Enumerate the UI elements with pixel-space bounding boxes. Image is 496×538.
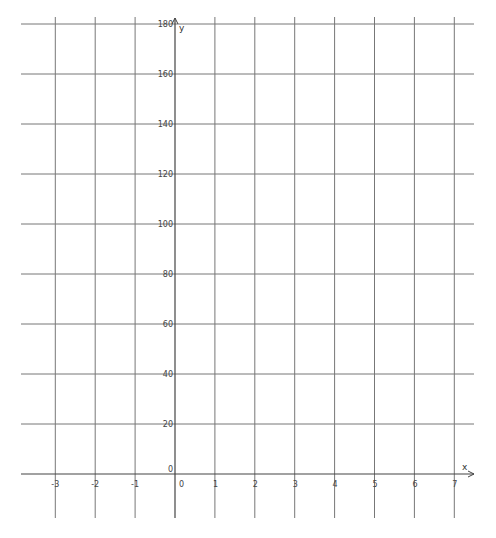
x-tick-label: -1	[131, 480, 139, 489]
x-tick-label: 0	[179, 480, 184, 489]
coordinate-grid: x y -3-2-101234567 020406080100120140160…	[0, 0, 496, 538]
y-tick-labels: 020406080100120140160180	[158, 20, 173, 474]
x-tick-label: -3	[51, 480, 59, 489]
axes: x y	[21, 18, 474, 518]
vertical-gridlines	[55, 17, 454, 518]
y-tick-label: 0	[168, 465, 173, 474]
y-tick-label: 100	[158, 220, 173, 229]
y-tick-label: 20	[163, 420, 173, 429]
x-axis-label: x	[462, 462, 468, 472]
x-tick-label: 1	[213, 480, 218, 489]
x-tick-label: 4	[333, 480, 338, 489]
x-tick-label: 7	[452, 480, 457, 489]
y-tick-label: 120	[158, 170, 173, 179]
horizontal-gridlines	[21, 24, 474, 424]
y-tick-label: 60	[163, 320, 173, 329]
y-tick-label: 80	[163, 270, 173, 279]
x-tick-label: 3	[293, 480, 298, 489]
x-tick-label: 5	[373, 480, 378, 489]
y-tick-label: 180	[158, 20, 173, 29]
x-tick-label: 2	[253, 480, 258, 489]
y-tick-label: 140	[158, 120, 173, 129]
y-tick-label: 40	[163, 370, 173, 379]
y-axis-label: y	[179, 23, 185, 33]
x-tick-label: 6	[412, 480, 417, 489]
x-tick-labels: -3-2-101234567	[51, 480, 457, 489]
x-tick-label: -2	[91, 480, 99, 489]
y-tick-label: 160	[158, 70, 173, 79]
